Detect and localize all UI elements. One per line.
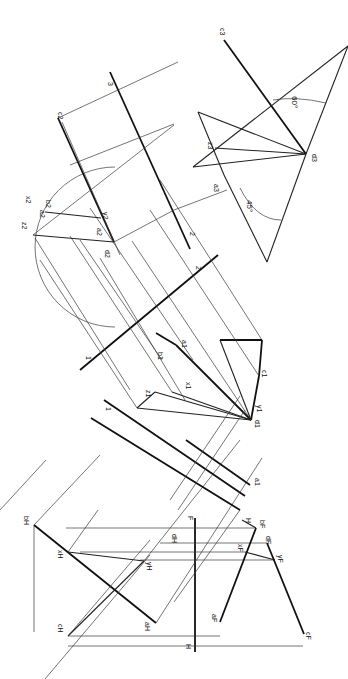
edge-dF-cF xyxy=(267,543,304,634)
angle-label-60: 60° xyxy=(290,96,299,108)
label-three: 3 xyxy=(107,82,114,86)
label-dF: dF xyxy=(265,536,272,544)
edge-cH-yH xyxy=(68,561,144,636)
label-d1: d1 xyxy=(254,420,261,428)
labels-group: c2 c3 3 z3 d3 a3 2 2 x2 b2 a2 y2 z2 a2 d… xyxy=(21,28,318,649)
projector xyxy=(70,236,172,392)
edge-bH-aH xyxy=(34,525,156,623)
label-a2-inner: a2 xyxy=(96,228,103,236)
angle-label-45: 45° xyxy=(245,200,254,212)
label-c1: c1 xyxy=(261,370,268,378)
label-x1: x1 xyxy=(185,382,192,390)
label-d3: d3 xyxy=(311,154,318,162)
label-b2: b2 xyxy=(45,200,52,208)
projector xyxy=(34,455,100,525)
label-c3: c3 xyxy=(219,28,226,36)
projector xyxy=(178,410,245,510)
label-bF: bF xyxy=(259,520,266,528)
label-x2: x2 xyxy=(25,196,32,204)
edge xyxy=(91,418,240,510)
projector-d2-d3 xyxy=(114,210,174,242)
label-aF: aF xyxy=(211,614,218,622)
label-cH: cH xyxy=(57,624,64,633)
projector xyxy=(68,540,150,636)
projector xyxy=(45,555,150,679)
label-dH: dH xyxy=(171,534,178,543)
edge xyxy=(224,175,267,262)
fold-line-H-1 xyxy=(104,400,245,496)
label-H-top: H xyxy=(245,518,252,523)
label-a2: a2 xyxy=(39,210,46,218)
edge-d3-bottom xyxy=(267,154,306,262)
edge-b1 xyxy=(156,333,176,345)
label-a1: a1 xyxy=(181,340,188,348)
label-d2: d2 xyxy=(104,250,111,258)
label-two-b: 2 xyxy=(195,266,202,270)
label-yF: yF xyxy=(276,555,284,563)
rotation-arc xyxy=(35,167,115,327)
drawing-svg: c2 c3 3 z3 d3 a3 2 2 x2 b2 a2 y2 z2 a2 d… xyxy=(0,0,348,679)
label-y2: y2 xyxy=(101,212,109,220)
label-F: F xyxy=(187,516,194,520)
projector xyxy=(68,510,98,552)
label-one-a: 1 xyxy=(85,356,92,360)
projector-c2-c3 xyxy=(58,62,178,118)
label-a3: a3 xyxy=(213,184,220,192)
label-bH: bH xyxy=(23,516,30,525)
label-two-a: 2 xyxy=(189,232,196,236)
edge-d1-c1 xyxy=(251,376,259,420)
label-xH: xH xyxy=(57,550,64,559)
descriptive-geometry-drawing: c2 c3 3 z3 d3 a3 2 2 x2 b2 a2 y2 z2 a2 d… xyxy=(0,0,348,679)
label-one-b: 1 xyxy=(105,407,112,411)
label-c2: c2 xyxy=(57,112,64,120)
label-b1: b1 xyxy=(157,352,164,360)
label-z3: z3 xyxy=(207,142,214,150)
label-yH: yH xyxy=(145,562,153,571)
projector xyxy=(62,122,120,255)
edge xyxy=(193,154,306,167)
label-aH: aH xyxy=(144,622,151,631)
edge-c2-d2 xyxy=(58,118,114,242)
edge-bF-aF xyxy=(220,528,256,622)
label-a1-lower: a1 xyxy=(254,478,261,486)
label-y1: y1 xyxy=(255,405,263,413)
projector xyxy=(70,124,174,165)
label-H-front: H xyxy=(185,644,192,649)
projector xyxy=(0,460,46,510)
projector xyxy=(90,208,193,360)
label-xF: xF xyxy=(237,544,244,552)
label-cF: cF xyxy=(305,632,312,640)
projector xyxy=(174,190,227,210)
edge-xH-yH xyxy=(68,552,144,561)
edge-a2-y2 xyxy=(45,212,101,218)
projector xyxy=(174,510,240,602)
projector xyxy=(80,240,162,360)
label-z2: z2 xyxy=(21,222,28,230)
label-z1: z1 xyxy=(145,390,152,398)
